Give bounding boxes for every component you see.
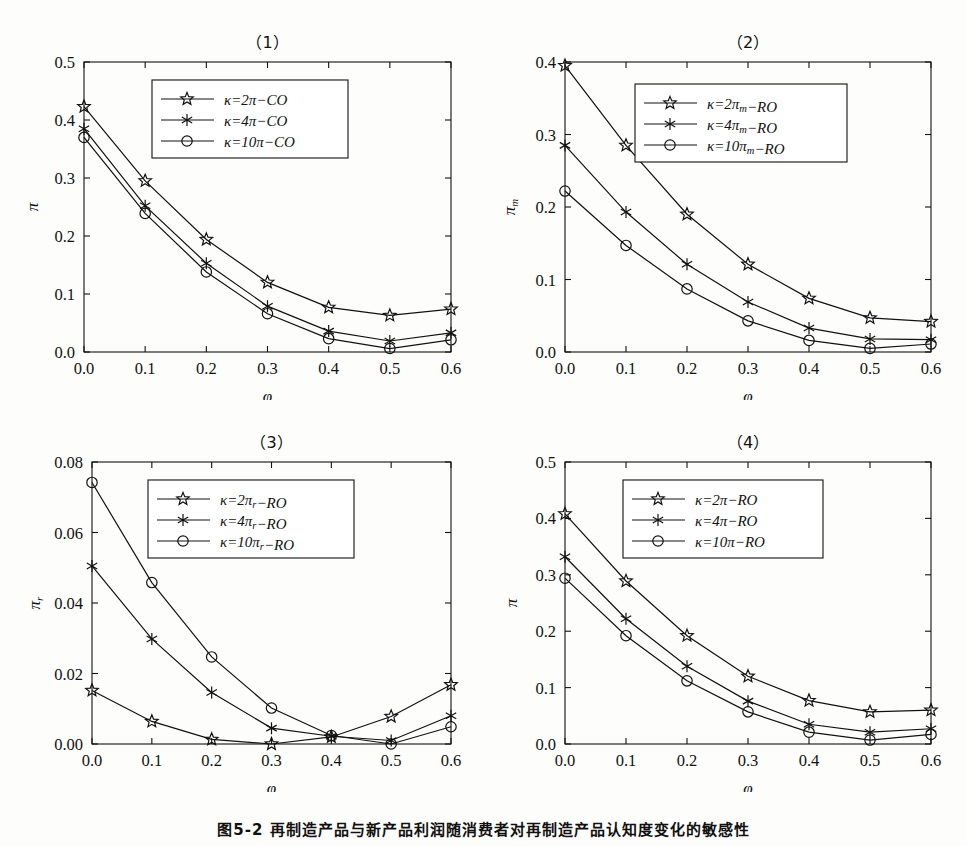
legend-label: κ=4π−CO <box>224 113 287 129</box>
x-tick-label: 0.4 <box>318 359 339 378</box>
y-tick-label: 0.1 <box>535 271 556 290</box>
legend: κ=2πr−ROκ=4πr−ROκ=10πr−RO <box>148 480 354 558</box>
legend: κ=2π−COκ=4π−COκ=10π−CO <box>152 80 348 158</box>
y-tick-label: 0.1 <box>54 285 75 304</box>
y-tick-label: 0.06 <box>54 524 83 543</box>
x-tick-label: 0.3 <box>261 751 282 770</box>
x-tick-label: 0.0 <box>74 359 95 378</box>
y-axis-label: π <box>23 202 42 211</box>
y-axis-label-text: πr <box>25 596 45 610</box>
y-tick-label: 0.04 <box>54 594 83 613</box>
series-2 <box>560 186 936 354</box>
y-tick-label: 0.3 <box>535 566 556 585</box>
y-tick-label: 0.3 <box>54 169 75 188</box>
y-tick-label: 0.4 <box>535 53 556 72</box>
panel-title: （4） <box>727 433 769 452</box>
legend-label: κ=2π−CO <box>224 92 287 108</box>
legend-label: κ=2π−RO <box>695 492 758 508</box>
y-tick-label: 0.2 <box>54 227 75 246</box>
y-tick-label: 0.0 <box>535 343 556 362</box>
y-axis-label-text: π <box>23 202 42 211</box>
y-tick-label: 0.0 <box>535 735 556 754</box>
x-tick-label: 0.1 <box>616 751 637 770</box>
y-tick-label: 0.4 <box>535 509 556 528</box>
data-point <box>864 311 877 323</box>
y-axis-label: πm <box>500 199 520 216</box>
y-tick-label: 0.2 <box>535 622 556 641</box>
series-line <box>565 191 931 348</box>
y-tick-label: 0.2 <box>535 198 556 217</box>
data-point <box>743 695 753 707</box>
panel-3: （3）0.00.10.20.30.40.50.60.000.020.040.06… <box>0 400 483 792</box>
y-tick-label: 0.4 <box>54 111 75 130</box>
x-tick-label: 0.6 <box>921 751 942 770</box>
series-line <box>565 145 931 339</box>
data-point <box>743 296 753 308</box>
legend-label: κ=10π−CO <box>224 134 295 150</box>
x-tick-label: 0.4 <box>321 751 342 770</box>
x-tick-label: 0.0 <box>555 751 576 770</box>
y-axis-label-text: πm <box>500 199 520 216</box>
y-axis-label-text: π <box>502 598 521 607</box>
x-axis-label: φ <box>263 387 272 400</box>
series-1 <box>560 551 936 738</box>
figure-caption: 图5-2 再制造产品与新产品利润随消费者对再制造产品认知度变化的敏感性 <box>0 818 967 846</box>
legend: κ=2πm−ROκ=4πm−ROκ=10πm−RO <box>635 84 847 162</box>
x-tick-label: 0.5 <box>860 751 881 770</box>
x-tick-label: 0.6 <box>921 359 942 378</box>
panel-title: （2） <box>727 33 769 52</box>
x-tick-label: 0.2 <box>677 359 698 378</box>
x-tick-label: 0.6 <box>441 359 462 378</box>
x-tick-label: 0.6 <box>441 751 462 770</box>
data-point <box>864 705 877 717</box>
data-point <box>682 660 692 672</box>
series-1 <box>87 560 456 746</box>
x-axis-label: φ <box>743 387 752 400</box>
y-tick-label: 0.5 <box>535 453 556 472</box>
x-tick-label: 0.3 <box>738 751 759 770</box>
x-tick-label: 0.0 <box>555 359 576 378</box>
panel-title: （3） <box>250 433 292 452</box>
y-tick-label: 0.3 <box>535 126 556 145</box>
y-tick-label: 0.0 <box>54 343 75 362</box>
legend-label: κ=4π−RO <box>695 513 758 529</box>
x-tick-label: 0.4 <box>799 751 820 770</box>
x-tick-label: 0.3 <box>738 359 759 378</box>
series-2 <box>560 573 936 745</box>
x-tick-label: 0.4 <box>799 359 820 378</box>
x-tick-label: 0.2 <box>677 751 698 770</box>
data-point <box>206 687 216 699</box>
y-tick-label: 0.02 <box>54 665 83 684</box>
y-axis-label: πr <box>25 596 45 610</box>
x-axis-label: φ <box>743 779 752 792</box>
panel-1: （1）0.00.10.20.30.40.50.60.00.10.20.30.40… <box>0 0 483 400</box>
y-axis-label: π <box>502 598 521 607</box>
y-tick-label: 0.1 <box>535 679 556 698</box>
x-tick-label: 0.3 <box>257 359 278 378</box>
legend-label: κ=10π−RO <box>695 534 765 550</box>
x-tick-label: 0.1 <box>616 359 637 378</box>
x-tick-label: 0.2 <box>201 751 222 770</box>
x-tick-label: 0.0 <box>82 751 103 770</box>
data-point <box>804 322 814 334</box>
data-point <box>682 258 692 270</box>
x-tick-label: 0.5 <box>380 359 401 378</box>
y-tick-label: 0.5 <box>54 53 75 72</box>
series-1 <box>560 139 936 345</box>
panel-grid: （1）0.00.10.20.30.40.50.60.00.10.20.30.40… <box>0 0 967 792</box>
panel-title: （1） <box>246 33 288 52</box>
x-tick-label: 0.1 <box>142 751 163 770</box>
x-tick-label: 0.5 <box>381 751 402 770</box>
x-tick-label: 0.5 <box>860 359 881 378</box>
series-line <box>565 578 931 740</box>
series-2 <box>79 132 456 354</box>
y-tick-label: 0.00 <box>54 735 83 754</box>
x-axis-label: φ <box>267 779 276 792</box>
legend: κ=2π−ROκ=4π−ROκ=10π−RO <box>623 480 823 558</box>
data-point <box>446 710 456 722</box>
panel-4: （4）0.00.10.20.30.40.50.60.00.10.20.30.40… <box>483 400 967 792</box>
x-tick-label: 0.1 <box>135 359 156 378</box>
x-tick-label: 0.2 <box>196 359 217 378</box>
data-point <box>384 309 397 321</box>
y-tick-label: 0.08 <box>54 453 83 472</box>
